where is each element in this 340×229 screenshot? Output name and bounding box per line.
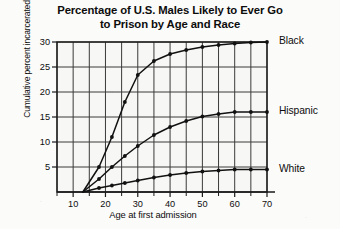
svg-text:60: 60 xyxy=(230,199,240,209)
svg-text:25: 25 xyxy=(40,62,50,72)
svg-text:40: 40 xyxy=(165,199,175,209)
svg-text:30: 30 xyxy=(133,199,143,209)
svg-text:15: 15 xyxy=(40,112,50,122)
svg-text:30: 30 xyxy=(40,37,50,47)
series-label-black: Black xyxy=(279,35,304,46)
chart-figure: Percentage of U.S. Males Likely to Ever … xyxy=(0,0,340,229)
svg-text:10: 10 xyxy=(68,199,78,209)
svg-text:20: 20 xyxy=(100,199,110,209)
svg-text:10: 10 xyxy=(40,137,50,147)
svg-text:70: 70 xyxy=(262,199,272,209)
svg-text:5: 5 xyxy=(45,162,50,172)
series-label-white: White xyxy=(279,163,305,174)
svg-text:20: 20 xyxy=(40,87,50,97)
svg-text:50: 50 xyxy=(197,199,207,209)
series-label-hispanic: Hispanic xyxy=(279,105,318,116)
